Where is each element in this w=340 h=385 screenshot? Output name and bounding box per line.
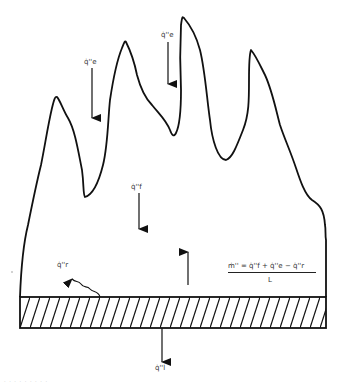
figure-caption: · · · · · · · · · <box>4 378 48 384</box>
label-flame-flux: q̇''f <box>131 184 142 191</box>
label-loss-flux: q̇''l <box>155 365 165 372</box>
label-reradiation-flux: q̇''r <box>57 262 68 269</box>
arrow-reradiation <box>72 279 100 297</box>
speck-dot <box>11 271 13 273</box>
fuel-bed <box>20 297 326 328</box>
label-external-flux-top: q̇''e <box>161 32 174 39</box>
equation-numerator: ṁ'' = q̇''f + q̇''e − q̇''r <box>228 262 304 270</box>
equation-fraction-bar <box>228 272 316 273</box>
flame-outline <box>20 17 326 297</box>
equation-denominator: L <box>268 276 272 284</box>
flame-diagram <box>0 0 340 385</box>
label-external-flux-left: q̇''e <box>84 59 97 66</box>
